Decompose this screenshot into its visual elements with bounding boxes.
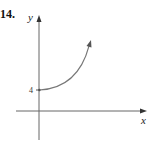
y-tick-4: 4 — [29, 86, 33, 95]
x-axis-arrow-icon — [140, 109, 147, 114]
y-axis-arrow-icon — [37, 15, 42, 22]
x-axis — [16, 109, 147, 114]
y-axis-label: y — [27, 11, 33, 23]
graph: y x 4 — [0, 0, 156, 143]
y-axis — [37, 15, 42, 140]
curve — [40, 46, 90, 90]
curve-arrow-icon — [87, 40, 92, 48]
x-axis-label: x — [140, 114, 146, 126]
